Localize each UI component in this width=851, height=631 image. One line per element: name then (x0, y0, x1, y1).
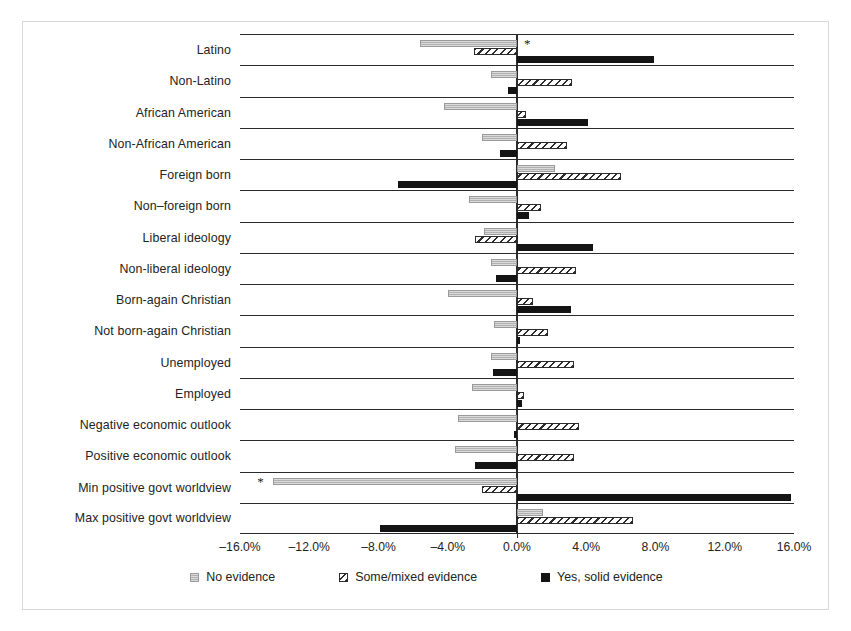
bar-yes (517, 244, 593, 251)
chart-row: Foreign born (240, 159, 794, 190)
bar-none (444, 103, 517, 110)
bar-group (240, 504, 794, 533)
bar-group (240, 410, 794, 440)
bar-some (517, 142, 567, 149)
bar-some (517, 454, 574, 461)
chart-row: Employed (240, 378, 794, 409)
bar-none (472, 384, 517, 391)
x-axis: –16.0%–12.0%–8.0%–4.0%0.0%4.0%8.0%12.0%1… (240, 534, 794, 564)
bar-none (517, 165, 555, 172)
chart-row: African American (240, 97, 794, 128)
bar-some (517, 204, 541, 211)
bar-none (448, 290, 517, 297)
chart-row: Non–foreign born (240, 190, 794, 221)
bar-none (482, 134, 517, 141)
bar-none (455, 446, 517, 453)
bar-some (517, 298, 533, 305)
bar-yes (517, 306, 571, 313)
bar-none (491, 259, 517, 266)
bar-none (494, 321, 517, 328)
x-tick-mark (517, 534, 518, 538)
category-label: Non-African American (108, 137, 231, 151)
chart-row: Non-liberal ideology (240, 253, 794, 284)
chart-row: Positive economic outlook (240, 440, 794, 471)
bar-group (240, 66, 794, 96)
bar-yes (517, 337, 520, 344)
bar-none (491, 71, 517, 78)
bar-group (240, 441, 794, 471)
legend-label: Yes, solid evidence (557, 570, 663, 584)
bar-none (517, 509, 543, 516)
category-label: African American (136, 106, 231, 120)
bar-group: * (240, 35, 794, 65)
significance-asterisk: * (524, 37, 531, 50)
chart-row: Unemployed (240, 347, 794, 378)
bar-some (474, 48, 517, 55)
category-label: Foreign born (160, 168, 231, 182)
bar-none (458, 415, 517, 422)
chart-figure: Latino*Non-LatinoAfrican AmericanNon-Afr… (22, 21, 829, 610)
bar-yes (517, 119, 588, 126)
category-label: Non-liberal ideology (119, 262, 231, 276)
chart-row: Max positive govt worldview (240, 503, 794, 534)
bar-none (484, 228, 517, 235)
bar-yes (508, 87, 517, 94)
bar-some (517, 329, 548, 336)
legend-item: Some/mixed evidence (339, 570, 477, 584)
bar-some (475, 236, 517, 243)
dotted-gray-swatch (190, 573, 199, 582)
bar-group (240, 191, 794, 221)
bar-yes (517, 56, 654, 63)
chart-row: Not born-again Christian (240, 315, 794, 346)
bar-group (240, 223, 794, 253)
category-label: Employed (175, 387, 231, 401)
bar-group: * (240, 473, 794, 503)
chart-row: Non-African American (240, 128, 794, 159)
bar-some (482, 486, 517, 493)
bar-yes (517, 400, 522, 407)
chart-legend: No evidenceSome/mixed evidenceYes, solid… (23, 570, 830, 584)
bar-yes (500, 150, 517, 157)
x-tick-label: –8.0% (361, 540, 396, 554)
bar-group (240, 129, 794, 159)
plot-area: Latino*Non-LatinoAfrican AmericanNon-Afr… (240, 34, 794, 534)
bar-group (240, 254, 794, 284)
bar-yes (475, 462, 517, 469)
bar-group (240, 316, 794, 346)
bar-group (240, 160, 794, 190)
bar-some (517, 173, 621, 180)
bar-some (517, 392, 524, 399)
bar-none (469, 196, 517, 203)
legend-label: Some/mixed evidence (355, 570, 477, 584)
solid-black-swatch (541, 573, 550, 582)
category-label: Liberal ideology (143, 231, 231, 245)
x-tick-label: 4.0% (572, 540, 600, 554)
x-tick-label: –4.0% (430, 540, 465, 554)
category-label: Not born-again Christian (94, 324, 231, 338)
bar-yes (398, 181, 517, 188)
bar-some (517, 423, 579, 430)
bar-group (240, 379, 794, 409)
chart-row: Non-Latino (240, 65, 794, 96)
bar-group (240, 348, 794, 378)
category-label: Unemployed (160, 356, 231, 370)
bar-yes (517, 494, 791, 501)
hatched-swatch (339, 573, 348, 582)
bar-some (517, 517, 633, 524)
category-label: Latino (197, 43, 231, 57)
chart-row: Min positive govt worldview* (240, 472, 794, 503)
bar-none (273, 478, 517, 485)
x-tick-label: 8.0% (642, 540, 670, 554)
bar-yes (496, 275, 517, 282)
chart-row: Negative economic outlook (240, 409, 794, 440)
category-label: Max positive govt worldview (75, 511, 231, 525)
bar-yes (380, 525, 517, 532)
chart-row: Liberal ideology (240, 222, 794, 253)
category-label: Min positive govt worldview (78, 481, 231, 495)
category-label: Born-again Christian (116, 293, 231, 307)
bar-group (240, 98, 794, 128)
legend-label: No evidence (206, 570, 275, 584)
legend-item: Yes, solid evidence (541, 570, 663, 584)
bar-group (240, 285, 794, 315)
category-label: Non-Latino (169, 74, 231, 88)
